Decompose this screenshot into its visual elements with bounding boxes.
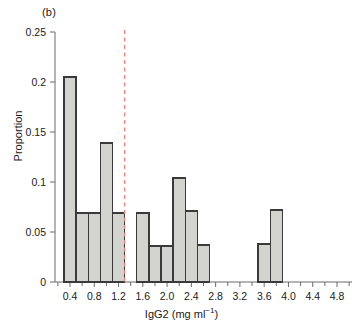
x-tick-label: 3.6	[257, 290, 272, 302]
plot-area: 00.050.10.150.20.250.40.81.21.62.02.42.8…	[0, 0, 363, 327]
histogram-bar	[88, 213, 100, 282]
x-tick-label: 0.4	[63, 290, 78, 302]
bar-group	[64, 77, 282, 282]
y-tick-label: 0.1	[31, 176, 46, 188]
histogram-bar	[197, 245, 209, 282]
y-tick-label: 0	[40, 276, 46, 288]
histogram-bar	[112, 213, 124, 282]
histogram-bar	[64, 77, 76, 282]
histogram-figure: (b) Proportion IgG2 (mg ml−1) 00.050.10.…	[0, 0, 363, 327]
y-tick-label: 0.2	[31, 76, 46, 88]
x-tick-label: 2.8	[208, 290, 223, 302]
histogram-bar	[173, 178, 185, 282]
histogram-bar	[76, 213, 88, 282]
histogram-bar	[270, 210, 282, 282]
histogram-bar	[185, 211, 197, 282]
histogram-bar	[100, 143, 112, 282]
y-tick-label: 0.05	[26, 226, 47, 238]
x-tick-label: 3.2	[233, 290, 248, 302]
x-tick-label: 4.8	[330, 290, 345, 302]
histogram-bar	[258, 244, 270, 282]
x-tick-label: 1.2	[111, 290, 126, 302]
histogram-bar	[149, 246, 161, 282]
x-tick-label: 0.8	[87, 290, 102, 302]
y-tick-label: 0.15	[26, 126, 47, 138]
x-tick-label: 4.0	[281, 290, 296, 302]
x-tick-label: 1.6	[136, 290, 151, 302]
x-tick-label: 2.4	[184, 290, 199, 302]
y-tick-label: 0.25	[26, 26, 47, 38]
histogram-bar	[137, 213, 149, 282]
histogram-bar	[161, 246, 173, 282]
x-tick-label: 2.0	[160, 290, 175, 302]
x-tick-label: 4.4	[305, 290, 320, 302]
